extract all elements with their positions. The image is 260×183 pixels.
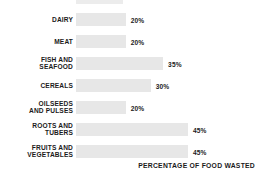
- bar-fill: [76, 79, 151, 92]
- bar-category-label: FISH AND SEAFOOD: [1, 56, 73, 71]
- bar-value-label: 45%: [193, 148, 207, 155]
- cropped-bar-remnant: [76, 0, 123, 4]
- bar-fill: [76, 145, 188, 158]
- bar-category-label: ROOTS AND TUBERS: [1, 122, 73, 137]
- bar-rows: DAIRY20%MEAT20%FISH AND SEAFOOD35%CEREAL…: [0, 13, 260, 167]
- bar-category-label: DAIRY: [1, 16, 73, 24]
- bar-value-label: 35%: [168, 60, 182, 67]
- bar-track: 45%: [76, 123, 260, 136]
- bar-value-label: 20%: [131, 104, 145, 111]
- bar-row: ROOTS AND TUBERS45%: [0, 123, 260, 136]
- bar-value-label: 20%: [131, 38, 145, 45]
- bar-track: 20%: [76, 13, 260, 26]
- bar-row: DAIRY20%: [0, 13, 260, 26]
- bar-track: 20%: [76, 101, 260, 114]
- bar-track: 30%: [76, 79, 260, 92]
- bar-row: CEREALS30%: [0, 79, 260, 92]
- bar-row: FISH AND SEAFOOD35%: [0, 57, 260, 70]
- bar-track: 20%: [76, 35, 260, 48]
- x-axis-caption: PERCENTAGE OF FOOD WASTED: [138, 162, 255, 169]
- food-waste-bar-chart: DAIRY20%MEAT20%FISH AND SEAFOOD35%CEREAL…: [0, 0, 260, 183]
- bar-category-label: FRUITS AND VEGETABLES: [1, 144, 73, 159]
- bar-category-label: OILSEEDS AND PULSES: [1, 100, 73, 115]
- bar-fill: [76, 123, 188, 136]
- bar-category-label: CEREALS: [1, 82, 73, 90]
- bar-track: 35%: [76, 57, 260, 70]
- bar-value-label: 20%: [131, 16, 145, 23]
- bar-fill: [76, 13, 126, 26]
- bar-value-label: 30%: [156, 82, 170, 89]
- bar-fill: [76, 35, 126, 48]
- bar-row: FRUITS AND VEGETABLES45%: [0, 145, 260, 158]
- bar-track: 45%: [76, 145, 260, 158]
- bar-fill: [76, 101, 126, 114]
- bar-row: MEAT20%: [0, 35, 260, 48]
- bar-value-label: 45%: [193, 126, 207, 133]
- bar-fill: [76, 57, 163, 70]
- bar-row: OILSEEDS AND PULSES20%: [0, 101, 260, 114]
- bar-category-label: MEAT: [1, 38, 73, 46]
